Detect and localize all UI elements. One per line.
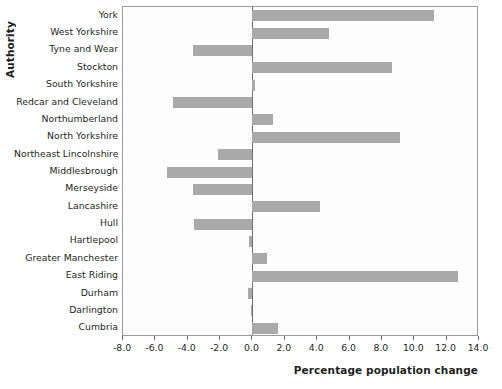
x-axis-tick-mark — [316, 336, 317, 340]
y-axis-tick-label: Greater Manchester — [14, 253, 118, 263]
bar — [252, 253, 267, 264]
bar — [193, 45, 253, 56]
bar — [252, 271, 458, 282]
x-axis-tick-label: 14.0 — [458, 342, 498, 353]
y-axis-tick-label: Northumberland — [14, 114, 118, 124]
y-axis-tick-label: Darlington — [14, 305, 118, 315]
x-axis-tick-mark — [284, 336, 285, 340]
y-axis-tick-label: Middlesbrough — [14, 166, 118, 176]
plot-area — [122, 6, 478, 336]
bar — [252, 323, 278, 334]
y-axis-tick-label: West Yorkshire — [14, 27, 118, 37]
y-axis-tick-label: Merseyside — [14, 183, 118, 193]
y-axis-tick-label: Cumbria — [14, 322, 118, 332]
bar — [173, 97, 252, 108]
x-axis-tick-mark — [122, 336, 123, 340]
x-axis-tick-mark — [251, 336, 252, 340]
bar — [252, 28, 328, 39]
x-axis-tick-mark — [478, 336, 479, 340]
y-axis-tick-label: South Yorkshire — [14, 79, 118, 89]
y-axis-tick-label: North Yorkshire — [14, 131, 118, 141]
y-axis-tick-label: York — [14, 10, 118, 20]
y-axis-tick-label: Hull — [14, 218, 118, 228]
x-axis-tick-mark — [446, 336, 447, 340]
bars-container — [123, 7, 477, 335]
x-axis-tick-mark — [187, 336, 188, 340]
y-axis-tick-label: Redcar and Cleveland — [14, 97, 118, 107]
bar — [252, 10, 433, 21]
bar-chart: Authority YorkWest YorkshireTyne and Wea… — [0, 0, 502, 389]
bar — [248, 288, 252, 299]
zero-baseline — [252, 7, 253, 335]
bar — [252, 62, 391, 73]
bar — [252, 201, 320, 212]
y-axis-tick-label: Tyne and Wear — [14, 44, 118, 54]
bar — [252, 114, 272, 125]
y-axis-tick-label: Lancashire — [14, 201, 118, 211]
x-axis-tick-mark — [219, 336, 220, 340]
x-axis-tick-mark — [349, 336, 350, 340]
y-axis-tick-label: Northeast Lincolnshire — [14, 149, 118, 159]
bar — [252, 80, 254, 91]
bar — [218, 149, 252, 160]
y-axis-tick-label: Durham — [14, 288, 118, 298]
x-axis-tick-mark — [154, 336, 155, 340]
y-axis-tick-label: East Riding — [14, 270, 118, 280]
bar — [251, 305, 253, 316]
x-axis-tick-mark — [413, 336, 414, 340]
bar — [193, 184, 253, 195]
y-axis-tick-label: Hartlepool — [14, 235, 118, 245]
y-axis-tick-label: Stockton — [14, 62, 118, 72]
bar — [249, 236, 252, 247]
bar — [167, 167, 253, 178]
x-axis-tick-mark — [381, 336, 382, 340]
bar — [252, 132, 399, 143]
bar — [194, 219, 252, 230]
x-axis-title: Percentage population change — [122, 364, 478, 376]
y-axis-tick-labels: YorkWest YorkshireTyne and WearStocktonS… — [14, 6, 118, 336]
